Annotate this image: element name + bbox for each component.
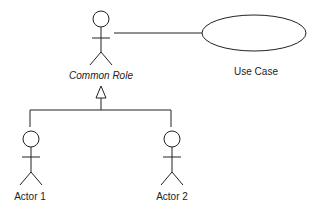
actor-leg-right: [172, 172, 183, 185]
actor-leg-left: [161, 172, 172, 185]
use-case-ellipse: [202, 15, 306, 51]
actor-label-actor-2: Actor 2: [156, 191, 188, 202]
use-case-diagram: Common Role Use Case Actor 1 Actor 2: [0, 0, 325, 215]
generalization-connector[interactable]: [30, 86, 171, 127]
actor-leg-left: [90, 52, 101, 65]
actor-leg-right: [101, 52, 112, 65]
actor-2[interactable]: Actor 2: [156, 131, 188, 202]
actor-1[interactable]: Actor 1: [14, 131, 46, 202]
actor-leg-left: [20, 172, 31, 185]
actor-head-icon: [23, 131, 39, 147]
use-case[interactable]: Use Case: [202, 15, 306, 77]
actor-head-icon: [93, 11, 109, 27]
actor-leg-right: [31, 172, 42, 185]
actor-label-actor-1: Actor 1: [14, 191, 46, 202]
generalization-arrowhead-icon: [96, 86, 106, 98]
use-case-label: Use Case: [234, 66, 278, 77]
actor-common-role[interactable]: Common Role: [69, 11, 133, 81]
actor-label-common-role: Common Role: [69, 70, 133, 81]
actor-head-icon: [164, 131, 180, 147]
